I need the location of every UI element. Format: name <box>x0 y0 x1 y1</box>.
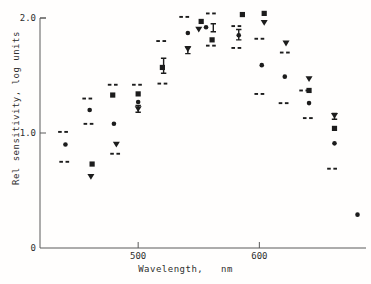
data-point-circle <box>283 74 288 79</box>
data-point-triangle-down <box>195 27 202 33</box>
data-point-dash-left <box>231 47 235 49</box>
data-point-square <box>199 19 204 24</box>
data-point-triangle-down <box>184 46 191 52</box>
data-point-triangle-down <box>261 20 268 26</box>
data-point-dash-right <box>116 153 120 155</box>
data-point-dash-left <box>108 84 112 86</box>
data-point-square <box>136 91 141 96</box>
data-point-circle <box>204 25 209 30</box>
data-point-dash-left <box>59 161 63 163</box>
data-point-dash-left <box>58 131 62 133</box>
data-point-circle <box>307 101 312 106</box>
data-point-dash-left <box>179 16 183 18</box>
data-point-dash-right <box>90 123 94 125</box>
data-point-dash-right <box>89 98 93 100</box>
y-tick-label: 1.0 <box>20 128 36 138</box>
data-point-dash-right <box>164 83 168 85</box>
x-axis-title: Wavelength, nm <box>0 264 371 274</box>
data-point-circle <box>136 100 141 105</box>
data-point-dash-right <box>261 38 265 40</box>
data-point-dash-left <box>231 25 235 27</box>
data-point-triangle-down <box>306 76 313 82</box>
data-point-dash-left <box>156 40 160 42</box>
error-bar <box>211 24 216 32</box>
data-point-dash-left <box>206 13 210 15</box>
data-point-square <box>90 161 95 166</box>
data-point-square <box>110 92 115 97</box>
data-point-dash-right <box>66 161 70 163</box>
data-point-dash-right <box>333 168 337 170</box>
data-point-dash-right <box>162 40 166 42</box>
data-point-dash-left <box>280 52 284 54</box>
data-point-dash-right <box>138 84 142 86</box>
y-tick-label: 2.0 <box>20 13 36 23</box>
data-point-square <box>209 37 214 42</box>
data-point-dash-right <box>285 102 289 104</box>
data-point-dash-right <box>261 93 265 95</box>
data-point-square <box>262 11 267 16</box>
data-point-dash-right <box>309 117 313 119</box>
data-point-dash-right <box>186 16 190 18</box>
data-point-dash-left <box>110 153 114 155</box>
spectral-sensitivity-chart: 01.02.0500600 <box>0 0 371 284</box>
x-tick-label: 600 <box>251 251 267 261</box>
data-point-dash-left <box>82 98 86 100</box>
data-point-dash-left <box>132 84 136 86</box>
data-point-dash-left <box>254 93 258 95</box>
data-point-circle <box>236 33 241 38</box>
data-point-triangle-down <box>135 106 142 112</box>
data-point-triangle-down <box>331 113 338 119</box>
data-point-dash-right <box>212 45 216 47</box>
y-axis-title: Rel sensitivity, log units <box>11 55 21 185</box>
data-point-dash-right <box>114 84 118 86</box>
data-point-dash-right <box>238 47 242 49</box>
data-point-dash-left <box>206 45 210 47</box>
y-tick-label: 0 <box>31 243 36 253</box>
data-point-square <box>240 12 245 17</box>
data-point-dash-left <box>303 117 307 119</box>
data-point-dash-right <box>238 25 242 27</box>
data-point-dash-right <box>286 52 290 54</box>
axis-lines <box>40 18 366 248</box>
data-point-dash-left <box>279 102 283 104</box>
data-point-dash-left <box>299 90 303 92</box>
data-point-dash-left <box>158 83 162 85</box>
data-point-dash-left <box>84 123 88 125</box>
x-tick-label: 500 <box>130 251 146 261</box>
data-point-circle <box>332 141 337 146</box>
figure: 01.02.0500600 Rel sensitivity, log units… <box>0 0 371 284</box>
data-point-square <box>160 65 165 70</box>
data-point-circle <box>87 108 92 113</box>
data-point-square <box>332 126 337 131</box>
data-point-circle <box>112 122 117 127</box>
data-point-dash-right <box>212 13 216 15</box>
data-point-triangle-down <box>113 142 120 148</box>
data-point-triangle-down <box>283 41 290 47</box>
data-point-circle <box>63 142 68 147</box>
data-point-circle <box>259 63 264 68</box>
data-point-dash-right <box>64 131 68 133</box>
data-point-dash-left <box>254 38 258 40</box>
data-point-dash-right <box>305 90 309 92</box>
data-point-dash-left <box>327 168 331 170</box>
data-point-triangle-down <box>87 174 94 180</box>
data-point-circle <box>355 212 360 217</box>
data-point-circle <box>186 31 191 36</box>
